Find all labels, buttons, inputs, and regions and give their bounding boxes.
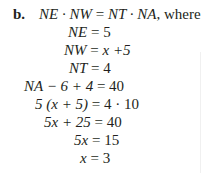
equation-line-1: NE · NW = NT · NA, where (39, 6, 201, 23)
equation-rhs: NT · NA (108, 6, 157, 22)
equation-op: = (95, 114, 103, 130)
equation-rhs: 5 (103, 24, 111, 40)
equation-op: = (90, 42, 98, 58)
equation-lhs: 5 (x + 5) (35, 96, 88, 112)
page-edge-rule (200, 52, 201, 173)
equation-line-4: NT = 4 (69, 60, 111, 77)
equation-op: = (96, 6, 104, 22)
equation-op: = (91, 60, 99, 76)
equation-suffix: , where (156, 6, 200, 22)
equation-line-7: 5x + 25 = 40 (44, 114, 122, 131)
equation-rhs: 4 (103, 60, 111, 76)
equation-rhs: 3 (103, 150, 111, 166)
equation-lhs: NW (64, 42, 87, 58)
equation-op: = (97, 78, 105, 94)
equation-line-8: 5x = 15 (74, 132, 119, 149)
equation-line-6: 5 (x + 5) = 4 · 10 (35, 96, 139, 113)
equation-op: = (92, 96, 100, 112)
equation-op: = (92, 132, 100, 148)
equation-lhs: NA − 6 + 4 (24, 78, 93, 94)
equation-lhs: x (80, 150, 87, 166)
problem-label: b. (13, 6, 25, 23)
equation-line-3: NW = x +5 (64, 42, 131, 59)
equation-rhs: 40 (109, 78, 124, 94)
equation-lhs: NT (69, 60, 87, 76)
equation-rhs: x +5 (102, 42, 130, 58)
equation-rhs: 40 (107, 114, 122, 130)
equation-line-2: NE = 5 (68, 24, 111, 41)
equation-rhs: 4 · 10 (104, 96, 139, 112)
equation-lhs: NE · NW (39, 6, 92, 22)
equation-lhs: 5x + 25 (44, 114, 91, 130)
equation-lhs: 5x (74, 132, 88, 148)
equation-lhs: NE (68, 24, 87, 40)
equation-line-9: x = 3 (80, 150, 110, 167)
equation-rhs: 15 (104, 132, 119, 148)
equation-line-5: NA − 6 + 4 = 40 (24, 78, 124, 95)
equation-op: = (91, 24, 99, 40)
equation-op: = (90, 150, 98, 166)
